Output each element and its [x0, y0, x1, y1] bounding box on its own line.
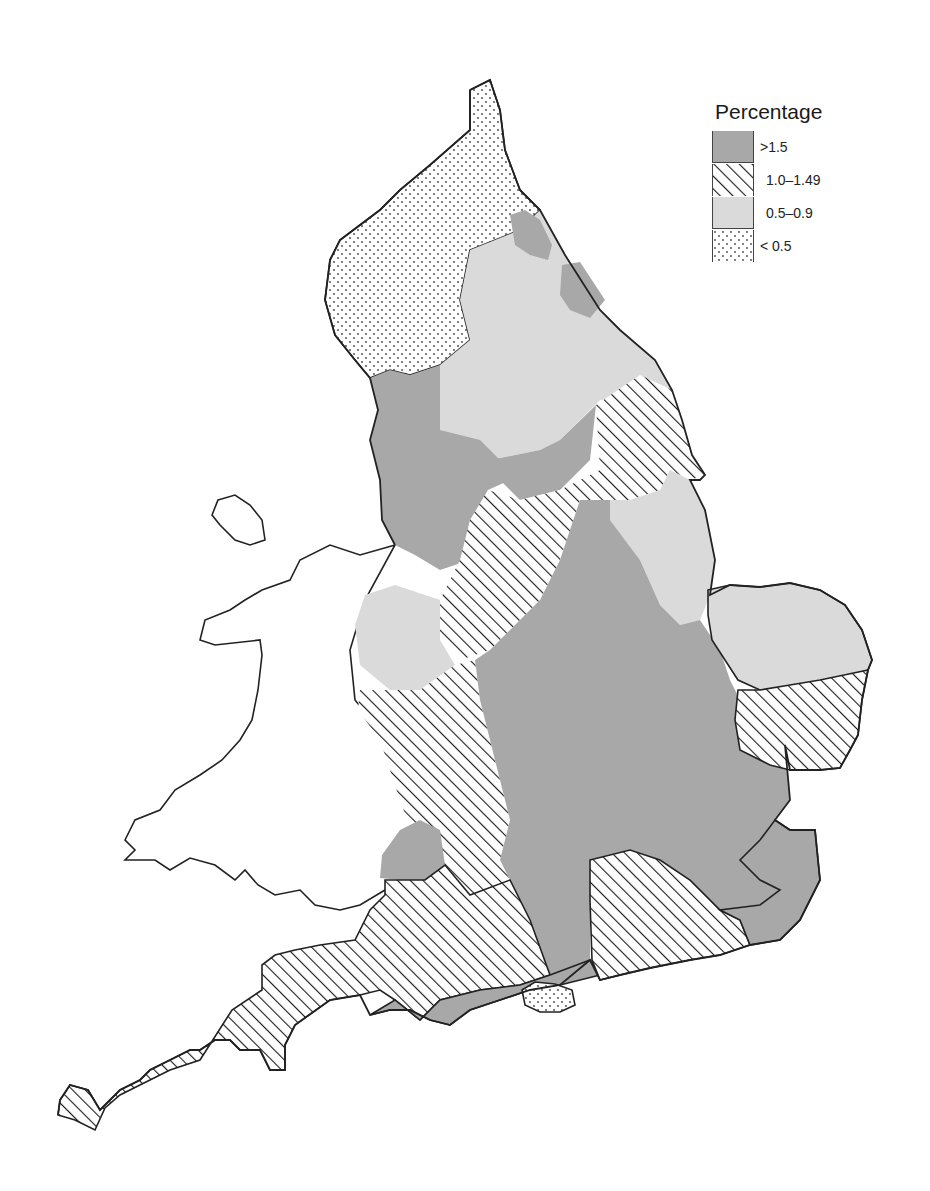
legend-swatch-dotted — [712, 230, 754, 262]
region-cheshire — [355, 585, 455, 690]
legend-swatch-light-grey — [712, 197, 754, 229]
legend-item-medium-low: 0.5–0.9 — [712, 196, 912, 229]
region-anglesey — [212, 495, 265, 545]
legend-item-medium-high: 1.0–1.49 — [712, 163, 912, 196]
map-legend: Percentage >1.5 1.0–1.49 0.5–0.9 < 0.5 — [712, 100, 912, 262]
legend-swatch-hatch — [712, 164, 754, 196]
legend-label: < 0.5 — [760, 238, 792, 254]
legend-label: 1.0–1.49 — [766, 172, 821, 188]
legend-label: >1.5 — [760, 139, 788, 155]
legend-item-high: >1.5 — [712, 130, 912, 163]
legend-label: 0.5–0.9 — [766, 205, 813, 221]
legend-item-low: < 0.5 — [712, 229, 912, 262]
legend-title: Percentage — [712, 100, 912, 124]
legend-swatch-dark-grey — [712, 131, 754, 163]
